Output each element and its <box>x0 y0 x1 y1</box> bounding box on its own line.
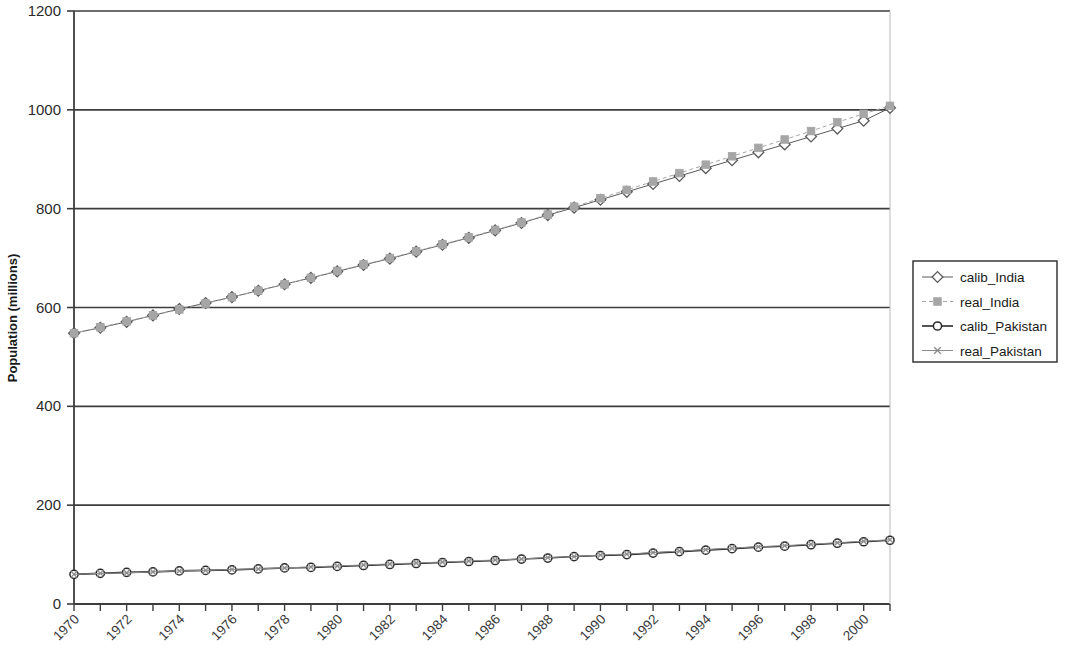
data-point-marker <box>934 298 942 306</box>
data-point-marker <box>202 300 210 308</box>
data-point-marker <box>886 102 894 110</box>
data-point-marker <box>649 178 657 186</box>
data-point-marker <box>175 306 183 314</box>
legend-label: real_Pakistan <box>960 344 1042 359</box>
data-point-marker <box>149 312 157 320</box>
data-point-marker <box>702 161 710 169</box>
data-point-marker <box>544 211 552 219</box>
data-point-marker <box>755 144 763 152</box>
data-point-marker <box>70 329 78 337</box>
data-point-marker <box>623 186 631 194</box>
data-point-marker <box>597 194 605 202</box>
y-tick-label: 800 <box>36 200 61 217</box>
data-point-marker <box>465 234 473 242</box>
data-point-marker <box>933 322 941 330</box>
y-tick-label: 1200 <box>28 2 61 19</box>
data-point-marker <box>676 169 684 177</box>
chart-background <box>0 0 1067 669</box>
data-point-marker <box>860 110 868 118</box>
y-tick-label: 1000 <box>28 101 61 118</box>
legend-item-calib_India[interactable]: calib_India <box>922 270 1025 285</box>
data-point-marker <box>281 280 289 288</box>
legend-label: calib_Pakistan <box>960 319 1047 334</box>
data-point-marker <box>97 323 105 331</box>
y-tick-label: 600 <box>36 299 61 316</box>
data-point-marker <box>781 136 789 144</box>
chart-figure: 020040060080010001200 197019721974197619… <box>0 0 1067 669</box>
data-point-marker <box>491 226 499 234</box>
data-point-marker <box>412 247 420 255</box>
y-axis-title-text: Population (millions) <box>5 254 20 383</box>
population-line-chart: 020040060080010001200 197019721974197619… <box>0 0 1067 669</box>
y-tick-label: 0 <box>53 595 61 612</box>
data-point-marker <box>360 261 368 269</box>
chart-legend: calib_Indiareal_Indiacalib_Pakistanreal_… <box>913 261 1057 362</box>
legend-label: real_India <box>960 295 1020 310</box>
data-point-marker <box>518 219 526 227</box>
data-point-marker <box>807 127 815 135</box>
data-point-marker <box>333 267 341 275</box>
data-point-marker <box>228 293 236 301</box>
data-point-marker <box>123 318 131 326</box>
data-point-marker <box>307 274 315 282</box>
data-point-marker <box>439 240 447 248</box>
data-point-marker <box>386 254 394 262</box>
data-point-marker <box>570 203 578 211</box>
data-point-marker <box>728 152 736 160</box>
data-point-marker <box>834 118 842 126</box>
y-tick-label: 400 <box>36 397 61 414</box>
data-point-marker <box>254 287 262 295</box>
legend-label: calib_India <box>960 270 1025 285</box>
y-tick-label: 200 <box>36 496 61 513</box>
y-axis-title: Population (millions) <box>5 254 20 383</box>
